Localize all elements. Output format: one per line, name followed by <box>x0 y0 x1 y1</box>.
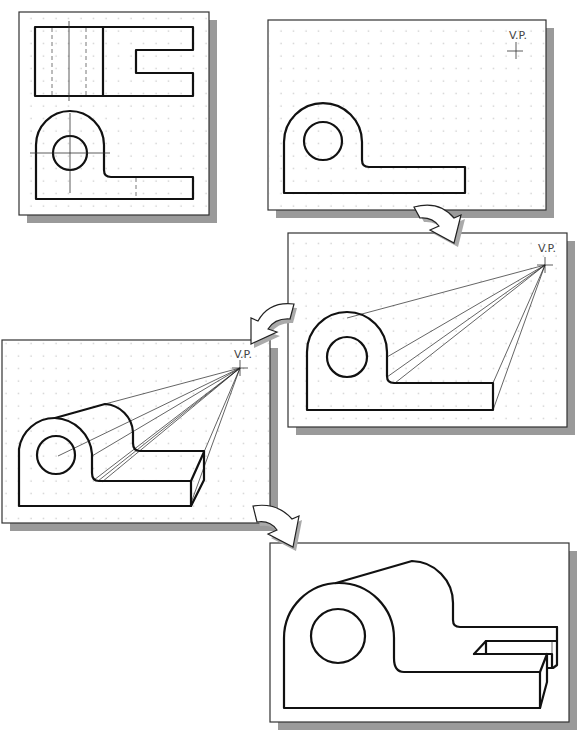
vp-label: V.P. <box>234 348 252 361</box>
final-solid-outline <box>283 555 563 715</box>
panel-orthographic-views <box>19 12 217 223</box>
vp-label: V.P. <box>538 242 556 255</box>
panel-front-face-and-vp: V.P. <box>268 20 554 218</box>
perspective-construction-diagram: V.P. V.P. V.P. <box>0 0 587 736</box>
vp-label: V.P. <box>509 29 527 42</box>
panel-projection-lines: V.P. <box>288 233 575 435</box>
panel-depth-lines: V.P. <box>2 340 278 531</box>
